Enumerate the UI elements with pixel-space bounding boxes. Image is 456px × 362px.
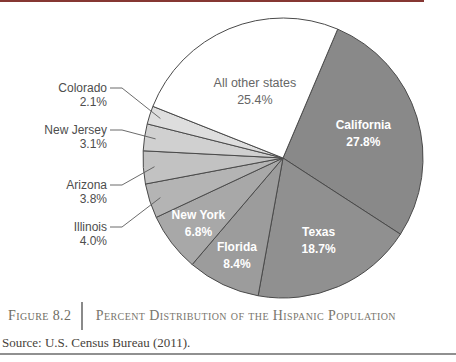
figure-title: Percent Distribution of the Hispanic Pop… [96,308,396,324]
slice-label-colorado: Colorado2.1% [58,81,107,109]
textbook-figure-page: California27.8%Texas18.7%Florida8.4%New … [0,0,456,362]
figure-caption: Figure 8.2 Percent Distribution of the H… [8,302,396,330]
source-note: Source: U.S. Census Bureau (2011). [2,335,190,351]
slice-label-arizona: Arizona3.8% [66,178,107,206]
slice-label-new-jersey: New Jersey3.1% [44,123,107,151]
slice-label-illinois: Illinois4.0% [74,220,108,248]
pie-chart: California27.8%Texas18.7%Florida8.4%New … [0,0,456,302]
caption-divider [81,302,83,330]
figure-number: Figure 8.2 [8,308,71,324]
bottom-rule [0,353,456,355]
